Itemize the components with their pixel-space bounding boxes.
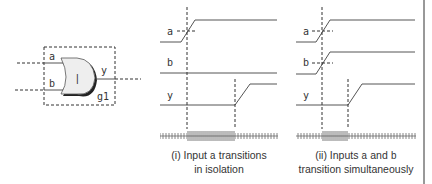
gate-input-label-b: b: [49, 78, 55, 89]
panel-caption-ii: (ii) Inputs a and b: [315, 149, 397, 162]
panel-caption-i: (i) Input a transitions: [171, 149, 266, 162]
waveform-y: [160, 84, 277, 105]
signal-label-a: a: [303, 26, 309, 37]
timing-panel-i: a b y (i) Input a transitions in isolati…: [160, 7, 278, 175]
signal-label-a: a: [167, 26, 173, 37]
diagram-canvas: | a b y g1 a b y (i) Input: [0, 0, 432, 184]
gate-instance-label: g1: [97, 91, 109, 102]
time-ruler: [160, 131, 278, 141]
signal-label-b: b: [303, 57, 309, 68]
time-ruler: [296, 131, 416, 141]
panel-caption-ii-line2: transition simultaneously: [299, 163, 415, 175]
timing-panel-ii: a b y (ii) Inputs a and b transition sim…: [296, 7, 416, 175]
gate-symbol: |: [76, 72, 79, 84]
signal-label-y: y: [167, 90, 173, 101]
gate-input-label-a: a: [49, 51, 55, 62]
signal-label-b: b: [167, 57, 173, 68]
waveform-y: [296, 84, 415, 105]
signal-label-y: y: [303, 90, 309, 101]
or-gate-schematic: | a b y g1: [15, 47, 141, 105]
panel-caption-i-line2: in isolation: [194, 163, 244, 175]
gate-output-label-y: y: [101, 65, 107, 76]
